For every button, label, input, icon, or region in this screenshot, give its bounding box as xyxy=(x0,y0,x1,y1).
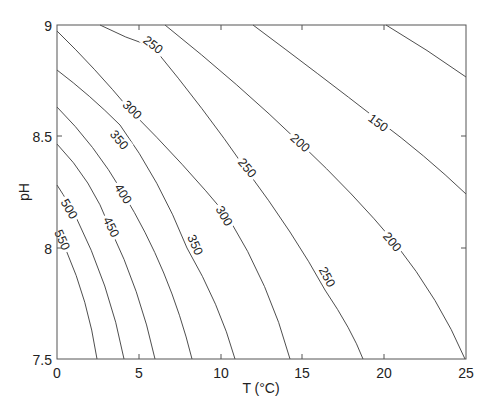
x-axis-label: T (°C) xyxy=(242,380,279,396)
y-tick-label: 7.5 xyxy=(33,352,53,368)
contour-chart: 250 300 350 400 500 450 550 200 xyxy=(0,0,490,412)
contour-labels: 250 300 350 400 500 450 550 200 xyxy=(50,31,406,292)
y-axis-label: pH xyxy=(16,183,32,201)
x-tick-label: 25 xyxy=(458,365,474,381)
contour-450 xyxy=(57,144,155,359)
y-tick-label: 8 xyxy=(44,241,52,257)
x-tick-label: 0 xyxy=(53,365,61,381)
contour-250 xyxy=(100,25,363,359)
contour-300 xyxy=(57,31,290,359)
contour-200 xyxy=(165,25,465,359)
y-tick-label: 8.5 xyxy=(33,129,53,145)
x-tick-label: 5 xyxy=(135,365,143,381)
x-tick-label: 10 xyxy=(213,365,229,381)
contour-150 xyxy=(253,25,466,194)
y-tick-label: 9 xyxy=(44,18,52,34)
x-tick-labels: 0 5 10 15 20 25 xyxy=(53,365,474,381)
y-tick-labels: 9 8.5 8 7.5 xyxy=(33,18,53,368)
x-tick-label: 15 xyxy=(294,365,310,381)
contour-100 xyxy=(386,25,466,77)
x-tick-label: 20 xyxy=(376,365,392,381)
